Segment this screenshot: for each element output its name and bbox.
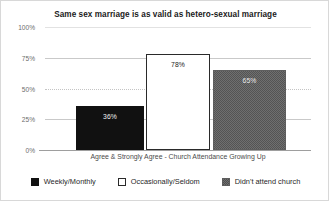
- legend-label-occasionally-seldom: Occasionally/Seldom: [131, 177, 200, 186]
- legend-item-weekly-monthly[interactable]: Weekly/Monthly: [31, 177, 96, 186]
- gridline-100: [45, 27, 311, 28]
- chart-card: Same sex marriage is as valid as hetero-…: [0, 0, 329, 201]
- bar-value-occasionally-seldom: 78%: [147, 61, 209, 68]
- bar-occasionally-seldom[interactable]: 78%: [146, 54, 210, 150]
- legend-swatch-icon: [222, 178, 230, 186]
- x-axis-label: Agree & Strongly Agree - Church Attendan…: [45, 153, 311, 160]
- bar-value-weekly-monthly: 36%: [77, 113, 143, 120]
- y-axis-tick-25: 25%: [0, 116, 35, 123]
- y-axis-tick-0: 0%: [0, 147, 35, 154]
- plot-area: 36% 78% 65%: [45, 27, 311, 150]
- bar-didnt-attend-church[interactable]: 65%: [213, 70, 286, 150]
- y-axis-tick-100: 100%: [0, 24, 35, 31]
- y-axis-tick-50: 50%: [0, 85, 35, 92]
- bar-value-didnt-attend-church: 65%: [214, 77, 285, 84]
- legend-swatch-icon: [31, 178, 39, 186]
- legend-item-occasionally-seldom[interactable]: Occasionally/Seldom: [118, 177, 200, 186]
- legend-item-didnt-attend-church[interactable]: Didn't attend church: [222, 177, 301, 186]
- legend-label-didnt-attend-church: Didn't attend church: [235, 177, 301, 186]
- chart-title: Same sex marriage is as valid as hetero-…: [1, 10, 329, 19]
- y-axis-tick-75: 75%: [0, 54, 35, 61]
- bar-weekly-monthly[interactable]: 36%: [76, 106, 144, 150]
- x-axis-baseline: [39, 150, 311, 151]
- chart-legend: Weekly/Monthly Occasionally/Seldom Didn'…: [1, 177, 329, 186]
- legend-swatch-icon: [118, 178, 126, 186]
- legend-label-weekly-monthly: Weekly/Monthly: [44, 177, 96, 186]
